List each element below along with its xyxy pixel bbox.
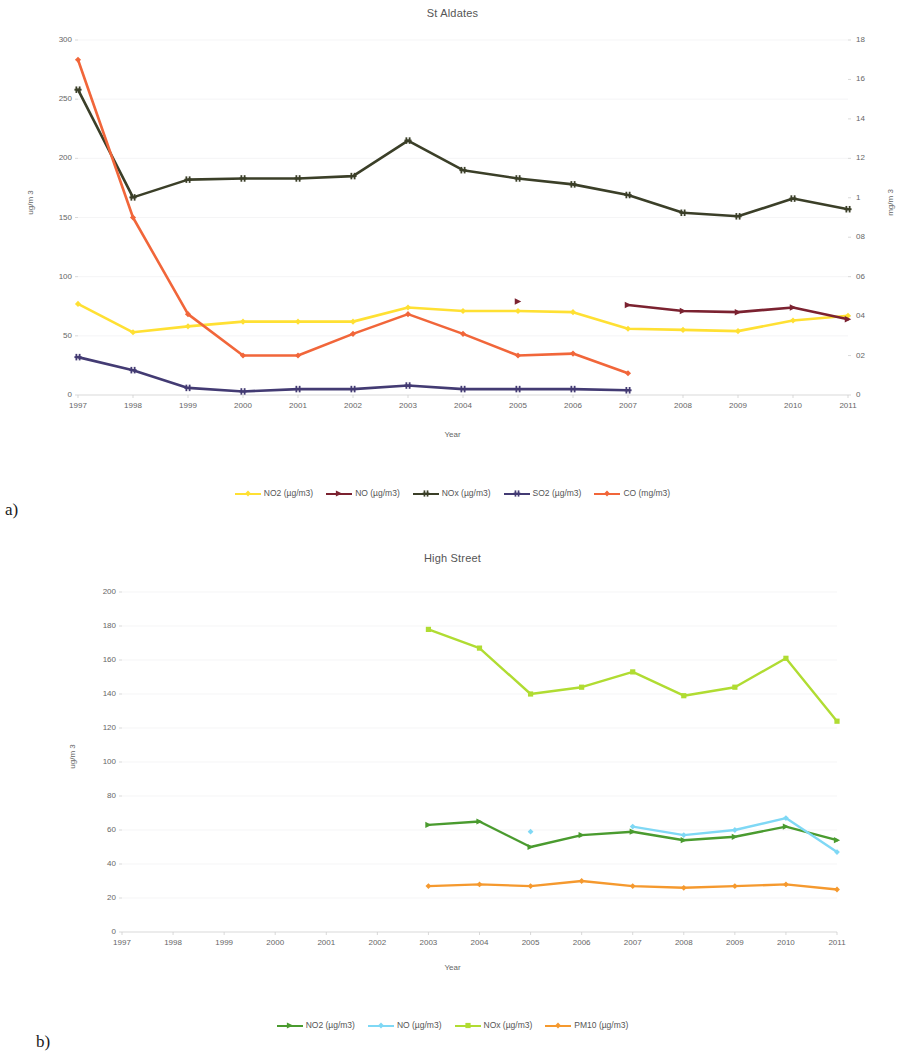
y-tick-label: 250	[40, 94, 72, 103]
chart-b-title: High Street	[0, 552, 905, 564]
x-tick-label: 2001	[306, 938, 346, 947]
legend-swatch-icon	[368, 1021, 394, 1030]
legend-item[interactable]: NO2 (µg/m3)	[235, 488, 313, 498]
chart-a-svg	[78, 40, 848, 395]
chart-b-x-axis-label: Year	[0, 963, 905, 972]
chart-a-y-axis-label-left: ug/m 3	[26, 179, 35, 227]
legend-label: NO (µg/m3)	[355, 488, 400, 498]
x-tick-label: 2003	[388, 401, 428, 410]
legend-label: NO2 (µg/m3)	[264, 488, 313, 498]
figure-a-st-aldates: St Aldates ug/m 3 mg/m 3 Year NO2 (µg/m3…	[0, 0, 905, 530]
y-tick-label-secondary: 08	[856, 232, 886, 241]
legend-swatch-icon	[594, 489, 620, 498]
x-tick-label: 2000	[255, 938, 295, 947]
panel-label-b: b)	[36, 1032, 50, 1052]
chart-a-x-axis-label: Year	[0, 430, 905, 439]
x-tick-label: 2006	[562, 938, 602, 947]
legend-item[interactable]: NOx (µg/m3)	[455, 1020, 533, 1030]
y-tick-label: 50	[40, 331, 72, 340]
chart-b-y-axis-label: ug/m 3	[68, 733, 77, 781]
chart-a-legend: NO2 (µg/m3)NO (µg/m3)NOx (µg/m3)SO2 (µg/…	[0, 488, 905, 498]
x-tick-label: 2002	[357, 938, 397, 947]
y-tick-label: 140	[84, 689, 116, 698]
legend-item[interactable]: NO2 (µg/m3)	[277, 1020, 355, 1030]
x-tick-label: 2010	[773, 401, 813, 410]
y-tick-label-secondary: 14	[856, 114, 886, 123]
chart-a-plot-area	[78, 40, 848, 395]
x-tick-label: 2003	[408, 938, 448, 947]
y-tick-label: 200	[40, 153, 72, 162]
chart-a-y-axis-label-right: mg/m 3	[886, 179, 895, 227]
y-tick-label-secondary: 02	[856, 351, 886, 360]
legend-item[interactable]: NO (µg/m3)	[368, 1020, 442, 1030]
legend-item[interactable]: NOx (µg/m3)	[413, 488, 491, 498]
x-tick-label: 2011	[817, 938, 857, 947]
y-tick-label: 20	[84, 893, 116, 902]
y-tick-label: 100	[40, 272, 72, 281]
chart-a-title: St Aldates	[0, 7, 905, 19]
x-tick-label: 2002	[333, 401, 373, 410]
y-tick-label-secondary: 04	[856, 311, 886, 320]
y-tick-label: 100	[84, 757, 116, 766]
x-tick-label: 2005	[498, 401, 538, 410]
y-tick-label-secondary: 18	[856, 35, 886, 44]
legend-label: SO2 (µg/m3)	[533, 488, 582, 498]
y-tick-label: 60	[84, 825, 116, 834]
legend-item[interactable]: SO2 (µg/m3)	[504, 488, 582, 498]
legend-label: NO2 (µg/m3)	[306, 1020, 355, 1030]
y-tick-label-secondary: 16	[856, 74, 886, 83]
y-tick-label-secondary: 12	[856, 153, 886, 162]
chart-b-svg	[122, 592, 837, 932]
x-tick-label: 2009	[718, 401, 758, 410]
x-tick-label: 2001	[278, 401, 318, 410]
x-tick-label: 2000	[223, 401, 263, 410]
x-tick-label: 2008	[664, 938, 704, 947]
legend-swatch-icon	[504, 489, 530, 498]
y-tick-label: 180	[84, 621, 116, 630]
x-tick-label: 2004	[460, 938, 500, 947]
x-tick-label: 2011	[828, 401, 868, 410]
legend-swatch-icon	[277, 1021, 303, 1030]
y-tick-label: 150	[40, 213, 72, 222]
x-tick-label: 1998	[153, 938, 193, 947]
panel-label-a: a)	[5, 500, 18, 520]
y-tick-label: 200	[84, 587, 116, 596]
legend-label: NO (µg/m3)	[397, 1020, 442, 1030]
legend-swatch-icon	[545, 1021, 571, 1030]
y-tick-label: 300	[40, 35, 72, 44]
legend-label: PM10 (µg/m3)	[574, 1020, 628, 1030]
chart-b-legend: NO2 (µg/m3)NO (µg/m3)NOx (µg/m3)PM10 (µg…	[0, 1020, 905, 1030]
x-tick-label: 1997	[58, 401, 98, 410]
x-tick-label: 2007	[608, 401, 648, 410]
legend-item[interactable]: PM10 (µg/m3)	[545, 1020, 628, 1030]
x-tick-label: 1999	[168, 401, 208, 410]
y-tick-label: 120	[84, 723, 116, 732]
legend-swatch-icon	[455, 1021, 481, 1030]
x-tick-label: 2007	[613, 938, 653, 947]
legend-item[interactable]: CO (mg/m3)	[594, 488, 670, 498]
x-tick-label: 1997	[102, 938, 142, 947]
x-tick-label: 1999	[204, 938, 244, 947]
legend-label: NOx (µg/m3)	[484, 1020, 533, 1030]
legend-swatch-icon	[235, 489, 261, 498]
y-tick-label: 160	[84, 655, 116, 664]
y-tick-label-secondary: 1	[856, 193, 886, 202]
y-tick-label: 80	[84, 791, 116, 800]
y-tick-label-secondary: 0	[856, 390, 886, 399]
chart-b-plot-area	[122, 592, 837, 932]
legend-label: CO (mg/m3)	[623, 488, 670, 498]
x-tick-label: 2006	[553, 401, 593, 410]
legend-item[interactable]: NO (µg/m3)	[326, 488, 400, 498]
legend-swatch-icon	[413, 489, 439, 498]
y-tick-label: 0	[40, 390, 72, 399]
legend-swatch-icon	[326, 489, 352, 498]
x-tick-label: 2009	[715, 938, 755, 947]
x-tick-label: 2008	[663, 401, 703, 410]
x-tick-label: 2004	[443, 401, 483, 410]
y-tick-label: 0	[84, 927, 116, 936]
y-tick-label: 40	[84, 859, 116, 868]
x-tick-label: 1998	[113, 401, 153, 410]
y-tick-label-secondary: 06	[856, 272, 886, 281]
x-tick-label: 2005	[511, 938, 551, 947]
x-tick-label: 2010	[766, 938, 806, 947]
